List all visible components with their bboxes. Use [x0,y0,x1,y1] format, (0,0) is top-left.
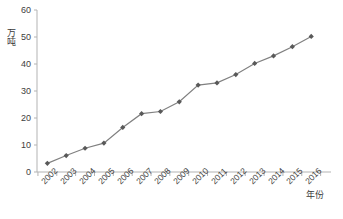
data-point-marker [45,161,50,166]
data-point-marker [214,80,219,85]
data-point-marker [252,61,257,66]
data-point-marker [233,72,238,77]
x-axis-title: 年份 [306,188,324,201]
data-point-marker [290,44,295,49]
data-markers [45,34,314,166]
data-point-marker [158,109,163,114]
data-point-marker [82,146,87,151]
data-point-marker [309,34,314,39]
plot-area [0,0,343,219]
data-point-marker [271,53,276,58]
data-point-marker [64,153,69,158]
line-chart: 万吨 0 10 20 30 40 50 60 20022003200420052… [0,0,343,219]
